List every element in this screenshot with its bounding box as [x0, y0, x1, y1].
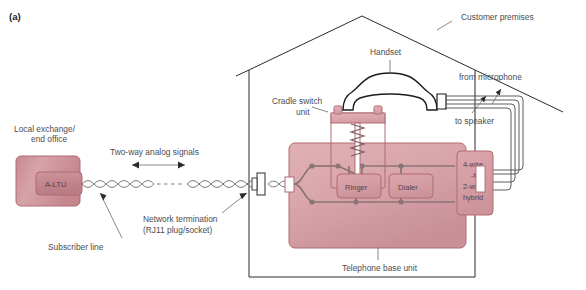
- altu-label: A-LTU: [45, 180, 66, 189]
- panel-tag: (a): [9, 11, 21, 22]
- cradle-switch-leader: [312, 107, 328, 112]
- dialer-label: Dialer: [398, 183, 418, 192]
- local-exchange-label-line1: Local exchange/: [14, 124, 76, 134]
- mic-speaker-pointers: [472, 89, 501, 113]
- handset-body: [343, 73, 437, 110]
- to-speaker-label: to speaker: [455, 116, 494, 126]
- ringer-component: Ringer: [337, 174, 381, 198]
- hybrid-connector-tab: [476, 166, 485, 192]
- two-way-arrow: [132, 162, 185, 169]
- network-termination-label: Network termination: [143, 214, 218, 224]
- arrow-head-left: [132, 162, 139, 169]
- node-dialer-top: [398, 163, 403, 168]
- node-lower-split: [309, 199, 314, 204]
- cradle-switch-label-line2: unit: [296, 107, 310, 117]
- dialer-component: Dialer: [389, 174, 433, 198]
- cradle-switch-label-line1: Cradle switch: [272, 96, 323, 106]
- hybrid-label-line4: hybrid: [463, 193, 483, 202]
- handset: [343, 73, 437, 110]
- handset-label: Handset: [370, 47, 402, 57]
- base-unit-line-entry: [285, 177, 294, 192]
- handset-cord-nub: [437, 94, 446, 109]
- customer-premises-label: Customer premises: [461, 12, 534, 22]
- cradle-prong-right: [374, 106, 382, 114]
- rj11-label: (RJ11 plug/socket): [143, 225, 212, 235]
- customer-premises-leader: [437, 21, 452, 30]
- telephone-network-diagram: (a) Customer premises A-LTU Local exchan…: [0, 0, 586, 290]
- node-ringer-bottom: [353, 199, 358, 204]
- subscriber-line-arrowhead: [100, 193, 106, 200]
- rj11-socket-body: [257, 173, 265, 195]
- house-eave-left: [236, 70, 249, 76]
- from-microphone-label: from microphone: [459, 72, 522, 82]
- hybrid-component: 4-wire -to- 2-wire hybrid: [457, 151, 493, 215]
- telephone-base-unit-label: Telephone base unit: [342, 263, 418, 273]
- rj11-plug-body: [252, 178, 257, 190]
- local-exchange-label-line2: end office: [31, 134, 68, 144]
- arrow-head-right: [178, 162, 185, 169]
- local-exchange-box: A-LTU: [16, 156, 82, 206]
- two-way-label: Two-way analog signals: [110, 147, 199, 157]
- figure-root: (a) Customer premises A-LTU Local exchan…: [0, 0, 586, 290]
- rj11-connector: [252, 173, 265, 195]
- from-microphone-arrowhead: [496, 89, 501, 96]
- cradle-prong-left: [334, 106, 342, 114]
- node-upper-split: [309, 163, 314, 168]
- subscriber-line-label: Subscriber line: [48, 242, 104, 252]
- ringer-label: Ringer: [345, 183, 368, 192]
- node-cradle-pivot: [335, 163, 340, 168]
- node-dialer-bottom: [398, 199, 403, 204]
- house-roof: [249, 16, 475, 70]
